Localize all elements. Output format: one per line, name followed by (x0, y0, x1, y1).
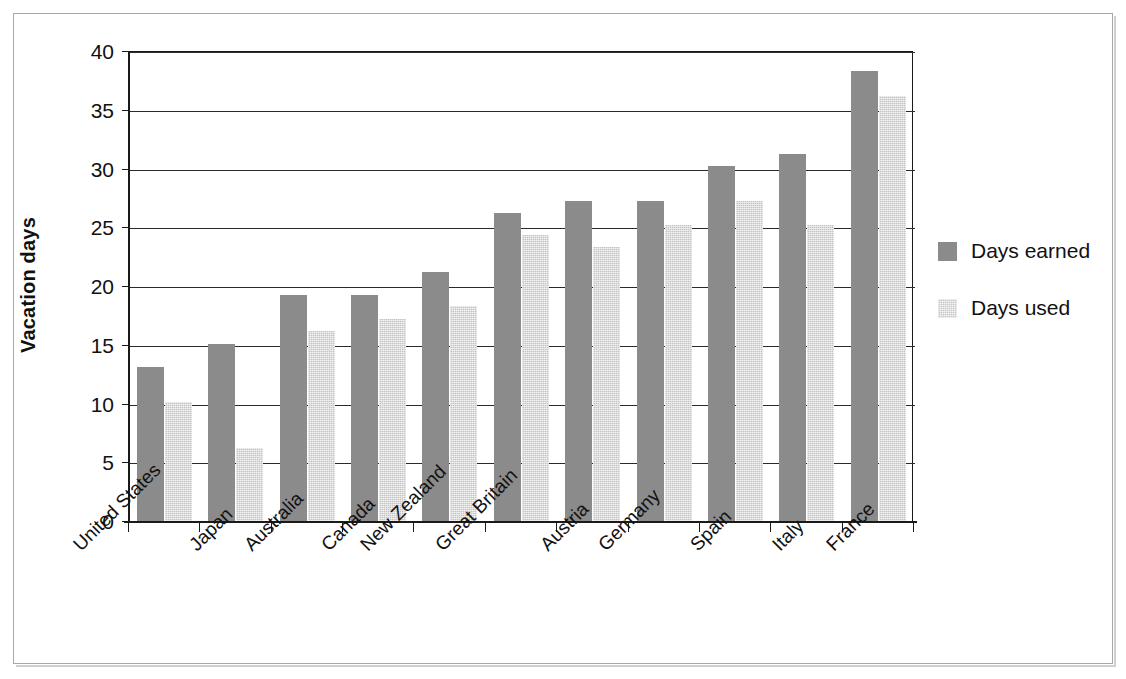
bar-group (779, 51, 843, 521)
y-axis-title: Vacation days (17, 217, 40, 353)
x-axis-tick-mark (770, 521, 771, 532)
legend-swatch-icon-days-earned (938, 242, 957, 261)
bar-days-earned (637, 201, 664, 521)
bar-group (637, 51, 701, 521)
x-axis-tick-mark (128, 521, 129, 532)
bar-days-earned (851, 71, 878, 521)
legend-swatch-icon-days-used (938, 299, 957, 318)
legend-label-days-earned: Days earned (971, 236, 1090, 266)
bar-days-earned (351, 295, 378, 521)
bar-days-used (879, 96, 906, 521)
bar-days-used (736, 201, 763, 521)
y-axis-tick-label: 40 (74, 41, 114, 62)
bar-group (351, 51, 415, 521)
bar-group (422, 51, 486, 521)
y-axis-tick-label: 15 (74, 334, 114, 355)
y-axis-tick-label: 5 (74, 452, 114, 473)
y-axis-tick-label: 20 (74, 276, 114, 297)
y-axis-tick-label: 25 (74, 217, 114, 238)
y-axis-tick-labels: 0510152025303540 (58, 0, 114, 679)
legend-label-days-used: Days used (971, 293, 1070, 323)
y-axis-tick-label: 35 (74, 99, 114, 120)
bar-days-used (379, 319, 406, 521)
bar-days-used (665, 225, 692, 521)
chart-page: Vacation days 0510152025303540 United St… (0, 0, 1126, 679)
bar-days-earned (565, 201, 592, 521)
bar-group (137, 51, 201, 521)
bar-days-used (308, 331, 335, 521)
bar-days-used (450, 306, 477, 521)
bar-days-used (807, 225, 834, 521)
bar-days-earned (708, 166, 735, 521)
bar-group (494, 51, 558, 521)
bar-days-used (236, 448, 263, 521)
x-axis-tick-mark (913, 521, 914, 532)
y-axis-tick-label: 30 (74, 158, 114, 179)
bar-group (280, 51, 344, 521)
x-axis-tick-mark (485, 521, 486, 532)
bar-days-earned (208, 344, 235, 521)
bar-days-earned (280, 295, 307, 521)
bar-days-used (593, 247, 620, 521)
plot-area (128, 51, 913, 521)
bar-chart: Vacation days 0510152025303540 United St… (0, 0, 1126, 679)
x-axis-tick-mark (413, 521, 414, 532)
bar-days-earned (779, 154, 806, 521)
bar-days-used (522, 235, 549, 521)
bar-days-used (165, 402, 192, 521)
bar-group (851, 51, 915, 521)
y-axis-tick-label: 10 (74, 393, 114, 414)
bar-group (565, 51, 629, 521)
bar-group (708, 51, 772, 521)
bar-group (208, 51, 272, 521)
